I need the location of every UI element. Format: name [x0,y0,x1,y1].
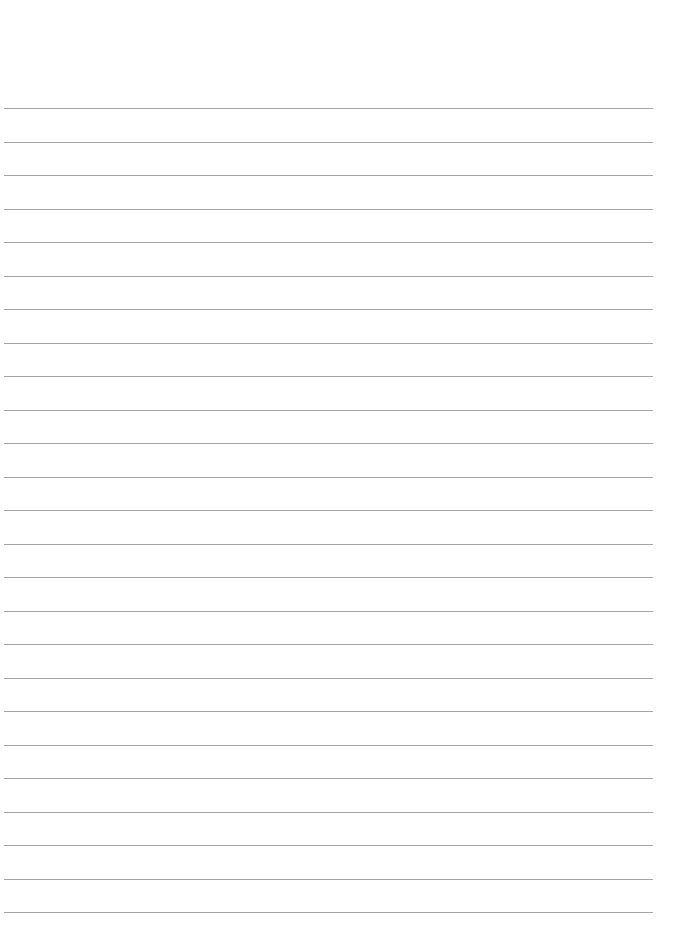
ruled-line [4,142,653,143]
ruled-line [4,209,653,210]
ruled-line [4,879,653,880]
ruled-line [4,544,653,545]
ruled-line [4,343,653,344]
ruled-line [4,812,653,813]
ruled-line [4,644,653,645]
ruled-line [4,510,653,511]
ruled-line [4,711,653,712]
ruled-line [4,276,653,277]
ruled-line [4,778,653,779]
ruled-line [4,376,653,377]
ruled-line [4,845,653,846]
ruled-line [4,108,653,109]
ruled-line [4,611,653,612]
ruled-line [4,175,653,176]
ruled-line [4,577,653,578]
ruled-line [4,410,653,411]
ruled-line [4,678,653,679]
ruled-line [4,309,653,310]
ruled-line [4,912,653,913]
ruled-line [4,443,653,444]
ruled-line [4,745,653,746]
lined-paper-page [0,0,686,952]
ruled-line [4,242,653,243]
ruled-line [4,477,653,478]
